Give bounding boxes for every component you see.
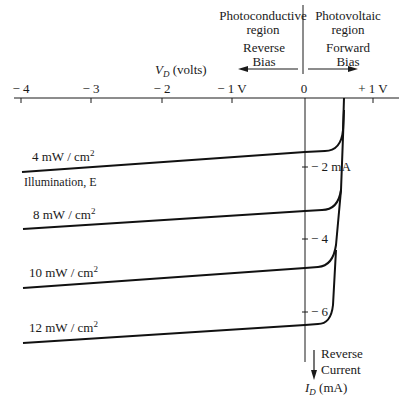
y-axis-title: ID (mA) [304, 380, 347, 397]
y-tick-label: − 4 [311, 231, 329, 246]
curve-label-12mw: 12 mW / cm2 [29, 319, 98, 335]
x-tick-label: 0 [301, 81, 308, 96]
photovoltaic-label-line2: region [331, 22, 365, 37]
curve-label-10mw: 10 mW / cm2 [29, 264, 98, 280]
reverse-current-label-line1: Reverse [321, 346, 363, 361]
curve-label-8mw: 8 mW / cm2 [33, 206, 95, 222]
y-tick-label: − 2 mA [311, 159, 351, 174]
photodiode-iv-diagram: Photoconductive region Photovoltaic regi… [0, 0, 399, 405]
reverse-current-arrow-icon [311, 350, 317, 380]
x-tick-label: − 3 [82, 81, 99, 96]
x-axis-title: VD (volts) [155, 62, 207, 79]
reverse-current-label-line2: Current [321, 362, 361, 377]
x-tick-label: − 1 V [217, 81, 247, 96]
x-tick-label: − 2 [153, 81, 170, 96]
x-tick-label: + 1 V [358, 81, 388, 96]
x-axis-ticks [21, 98, 373, 103]
y-tick-label: − 6 [311, 304, 329, 319]
forward-bias-arrow-icon [308, 66, 358, 72]
x-tick-label: − 4 [12, 81, 30, 96]
reverse-bias-label-line2: Bias [252, 54, 275, 69]
photoconductive-label-line1: Photoconductive [219, 8, 307, 23]
reverse-bias-label-line1: Reverse [243, 40, 285, 55]
photovoltaic-label-line1: Photovoltaic [315, 8, 381, 23]
photoconductive-label-line2: region [246, 22, 280, 37]
forward-bias-label-line1: Forward [326, 40, 371, 55]
curve-label-4mw: 4 mW / cm2 [32, 148, 94, 164]
illumination-label: Illumination, E [24, 175, 97, 189]
